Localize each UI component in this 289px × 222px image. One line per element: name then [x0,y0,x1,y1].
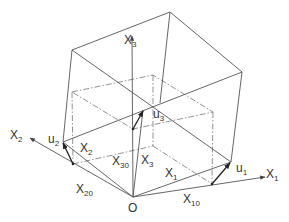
label-u2: u2 [48,132,60,148]
label-x30: X30 [112,154,129,170]
label-u1: u1 [236,161,248,177]
deformed-cube [63,12,242,197]
diagram-canvas: X3 X2 X1 u2 u3 u1 X2 X30 X3 X1 X20 X10 O [0,0,289,222]
label-x1-axis: X1 [266,167,279,183]
label-x10: X10 [183,192,200,208]
label-origin: O [128,201,137,215]
label-x2-axis: X2 [10,128,23,144]
label-u3: u3 [153,107,165,123]
x3-axis [132,36,133,197]
label-x2-vec: X2 [80,141,93,157]
x1-axis [133,177,265,197]
label-x3-axis: X3 [124,33,137,49]
label-x1-vec: X1 [165,166,178,182]
deformation-diagram: X3 X2 X1 u2 u3 u1 X2 X30 X3 X1 X20 X10 O [0,0,289,222]
u1-vector [212,163,230,184]
labels: X3 X2 X1 u2 u3 u1 X2 X30 X3 X1 X20 X10 O [10,33,279,215]
label-x20: X20 [76,182,93,198]
label-x3-vec: X3 [141,153,154,169]
